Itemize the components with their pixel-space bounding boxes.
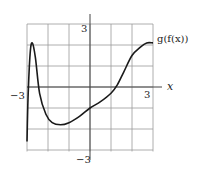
tick-label-y-bottom: −3: [76, 154, 91, 165]
tick-label-x-left: −3: [10, 90, 25, 101]
chart: x g(f(x)) 3 −3 −3 3: [0, 0, 201, 175]
tick-label-x-right: 3: [144, 89, 150, 100]
curve-label: g(f(x)): [157, 33, 188, 44]
tick-label-y-top: 3: [81, 23, 87, 34]
x-axis-label: x: [167, 80, 174, 93]
